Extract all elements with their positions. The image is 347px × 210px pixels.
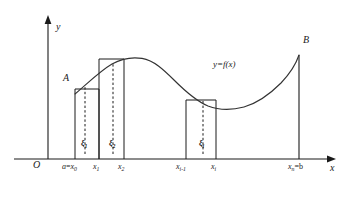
tick-label-x1: x1 — [93, 163, 99, 172]
tick-label-xim1-sub: i-1 — [180, 166, 186, 172]
sample-point-subscript-i: i — [203, 143, 205, 149]
point-b-label: B — [303, 35, 309, 45]
tick-label-x2: x2 — [118, 163, 124, 172]
figure-canvas — [0, 0, 347, 210]
tick-label-xn-eq: =b — [294, 162, 303, 171]
sample-point-label-i: ξi — [199, 140, 204, 149]
x-axis-label: x — [330, 163, 334, 173]
sample-point-label-1: ξ1 — [81, 140, 87, 149]
tick-label-xi: xi — [211, 163, 216, 172]
function-curve — [75, 55, 299, 109]
origin-label: O — [33, 160, 40, 170]
tick-label-x2-sub: 2 — [122, 166, 125, 172]
y-axis-label: y — [56, 22, 60, 32]
sample-point-subscript-2: 2 — [113, 143, 116, 149]
point-a-label: A — [63, 73, 69, 83]
y-axis — [45, 15, 52, 159]
tick-label-xim1: xi-1 — [176, 163, 186, 172]
sample-point-subscript-1: 1 — [85, 143, 88, 149]
riemann-rectangle-i — [186, 100, 216, 159]
riemann-sum-figure: y x O A B y=f(x) ξ1 ξ2 ξi a=x0 x1 x2 xi-… — [0, 0, 347, 210]
tick-label-x0: a=x0 — [62, 163, 77, 172]
function-label: y=f(x) — [213, 60, 236, 69]
tick-label-xi-sub: i — [215, 166, 217, 172]
tick-label-x1-sub: 1 — [97, 166, 100, 172]
rectangle-outline — [186, 100, 216, 159]
tick-label-x0-sub: 0 — [74, 166, 77, 172]
y-axis-arrow-icon — [45, 15, 52, 24]
tick-label-xn: xn=b — [288, 163, 303, 172]
sample-point-label-2: ξ2 — [109, 140, 115, 149]
